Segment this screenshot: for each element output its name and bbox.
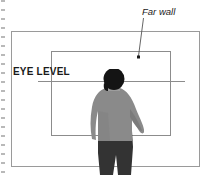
binding-holes-dotted-margin <box>1 0 5 175</box>
perspective-diagram-figure: EYE LEVEL Far wall <box>0 0 213 175</box>
person-silhouette-back-view <box>86 69 148 175</box>
eye-level-label: EYE LEVEL <box>13 66 70 77</box>
person-svg <box>86 69 148 175</box>
far-wall-label: Far wall <box>142 6 175 17</box>
